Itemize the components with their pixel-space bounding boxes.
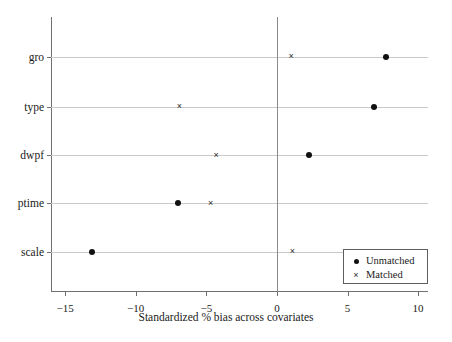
y-tick-label-ptime: ptime xyxy=(18,197,44,209)
legend-item-matched: × Matched xyxy=(349,267,427,281)
legend: Unmatched × Matched xyxy=(343,249,428,284)
y-tick-label-dwpf: dwpf xyxy=(20,149,44,161)
data-point-unmatched-type xyxy=(371,104,377,110)
legend-label-unmatched: Unmatched xyxy=(363,255,414,266)
filled-circle-icon xyxy=(349,255,363,266)
data-point-unmatched-dwpf xyxy=(306,152,312,158)
y-tick-mark-dwpf xyxy=(47,155,51,156)
data-point-matched-type: × xyxy=(175,102,184,111)
gridline-dwpf xyxy=(51,155,428,156)
x-tick-mark--10 xyxy=(136,292,137,296)
y-tick-label-type: type xyxy=(24,101,44,113)
data-point-unmatched-gro xyxy=(383,54,389,60)
legend-label-matched: Matched xyxy=(363,269,403,280)
x-axis-title: Standardized % bias across covariates xyxy=(0,311,452,323)
data-point-unmatched-ptime xyxy=(175,200,181,206)
x-tick-mark-10 xyxy=(418,292,419,296)
data-point-matched-ptime: × xyxy=(206,199,215,208)
x-tick-mark--15 xyxy=(65,292,66,296)
x-tick-mark-0 xyxy=(277,292,278,296)
data-point-matched-dwpf: × xyxy=(212,151,221,160)
y-tick-mark-type xyxy=(47,107,51,108)
gridline-ptime xyxy=(51,203,428,204)
x-mark-icon: × xyxy=(349,269,363,280)
x-tick-mark-5 xyxy=(348,292,349,296)
legend-item-unmatched: Unmatched xyxy=(349,253,427,267)
y-tick-mark-ptime xyxy=(47,203,51,204)
data-point-matched-scale: × xyxy=(288,247,297,256)
gridline-gro xyxy=(51,57,428,58)
x-tick-mark--5 xyxy=(206,292,207,296)
x-axis-line xyxy=(51,291,428,292)
y-tick-label-gro: gro xyxy=(29,51,44,63)
chart-figure: −15−10−50510 grotypedwpfptimescale ×××××… xyxy=(0,0,452,342)
y-tick-label-scale: scale xyxy=(21,246,44,258)
y-tick-mark-gro xyxy=(47,57,51,58)
data-point-unmatched-scale xyxy=(89,249,95,255)
y-tick-mark-scale xyxy=(47,252,51,253)
zero-reference-line xyxy=(277,17,278,292)
data-point-matched-gro: × xyxy=(287,52,296,61)
